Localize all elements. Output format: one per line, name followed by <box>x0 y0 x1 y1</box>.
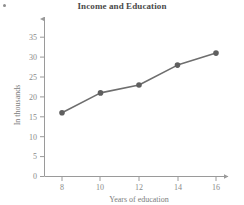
x-axis-tick-labels: 8 10 12 14 16 <box>60 183 220 192</box>
data-point-16 <box>213 50 219 56</box>
data-point-14 <box>175 62 181 68</box>
chart-figure: Income and Education 0 <box>0 0 244 205</box>
y-axis-tick-labels: 0 5 10 15 20 25 30 35 <box>29 33 37 181</box>
data-point-12 <box>136 82 142 88</box>
y-tick-label-0: 0 <box>33 172 37 181</box>
y-tick-label-5: 5 <box>33 152 37 161</box>
x-tick-label-16: 16 <box>212 183 220 192</box>
y-axis-ticks <box>40 37 45 176</box>
x-tick-label-14: 14 <box>174 183 182 192</box>
y-axis-title: In thousands <box>13 85 22 126</box>
data-point-10 <box>98 90 104 96</box>
y-tick-label-25: 25 <box>29 73 37 82</box>
x-tick-label-10: 10 <box>96 183 104 192</box>
y-tick-label-10: 10 <box>29 133 37 142</box>
y-tick-label-20: 20 <box>29 93 37 102</box>
y-tick-label-35: 35 <box>29 33 37 42</box>
x-axis-ticks <box>62 177 216 182</box>
x-axis-title: Years of education <box>109 195 169 204</box>
x-tick-label-12: 12 <box>135 183 143 192</box>
chart-plot-area: 0 5 10 15 20 25 30 35 8 10 12 14 16 Year… <box>0 0 244 205</box>
y-tick-label-30: 30 <box>29 53 37 62</box>
data-point-8 <box>59 110 65 116</box>
x-tick-label-8: 8 <box>60 183 64 192</box>
y-tick-label-15: 15 <box>29 113 37 122</box>
